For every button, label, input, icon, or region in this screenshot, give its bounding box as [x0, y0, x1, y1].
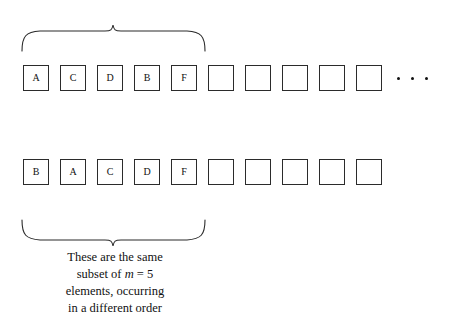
sequence-cell[interactable]: A: [23, 65, 49, 91]
sequence-cell-empty[interactable]: [356, 159, 382, 185]
sequence-cell-empty[interactable]: [282, 65, 308, 91]
sequence-cell-empty[interactable]: [208, 159, 234, 185]
sequence-cell[interactable]: B: [23, 159, 49, 185]
caption-line-1: These are the same: [34, 249, 196, 266]
caption-line-4: in a different order: [34, 300, 196, 317]
ellipsis-dot: [425, 77, 428, 80]
sequence-cell-empty[interactable]: [319, 159, 345, 185]
sequence-cell[interactable]: C: [60, 65, 86, 91]
sequence-cell[interactable]: D: [134, 159, 160, 185]
caption-block: These are the same subset of m = 5 eleme…: [34, 249, 196, 317]
sequence-cell-empty[interactable]: [282, 159, 308, 185]
caption-line-2: subset of m = 5: [34, 266, 196, 283]
sequence-cell-empty[interactable]: [356, 65, 382, 91]
top-brace: [22, 25, 205, 51]
sequence-cell[interactable]: B: [134, 65, 160, 91]
sequence-cell[interactable]: C: [97, 159, 123, 185]
sequence-cell[interactable]: F: [171, 65, 197, 91]
sequence-cell[interactable]: D: [97, 65, 123, 91]
bottom-brace: [22, 220, 205, 246]
second-sequence-row: B A C D F: [23, 158, 393, 186]
sequence-cell[interactable]: A: [60, 159, 86, 185]
math-value-m: 5: [147, 267, 153, 281]
math-variable-m: m: [125, 267, 134, 281]
sequence-cell-empty[interactable]: [245, 65, 271, 91]
ellipsis-dot: [411, 77, 414, 80]
sequence-cell[interactable]: F: [171, 159, 197, 185]
caption-line-3: elements, occurring: [34, 283, 196, 300]
caption-subset-prefix: subset of: [77, 267, 125, 281]
caption-equals: =: [134, 267, 147, 281]
sequence-cell-empty[interactable]: [319, 65, 345, 91]
ellipsis-icon: [397, 77, 439, 80]
figure-canvas: A C D B F B A C D F These are the same s…: [0, 0, 464, 329]
ellipsis-dot: [397, 77, 400, 80]
sequence-cell-empty[interactable]: [245, 159, 271, 185]
sequence-cell-empty[interactable]: [208, 65, 234, 91]
first-sequence-row: A C D B F: [23, 64, 439, 92]
